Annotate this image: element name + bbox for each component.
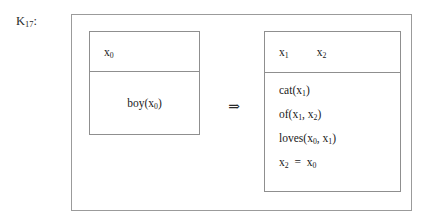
drs-label-base: K <box>16 14 25 28</box>
consequent-universe: x1x2 <box>265 32 400 73</box>
predicate-name: loves <box>279 132 303 144</box>
variable-base: x <box>279 46 285 58</box>
condition-line: of(x1, x2) <box>279 103 400 126</box>
universe-variable: x2 <box>317 46 327 58</box>
condition-line: cat(x1) <box>279 79 400 102</box>
close-paren: ) <box>306 84 310 96</box>
antecedent-universe: x0 <box>90 32 199 72</box>
consequent-drs-box: x1x2 cat(x1) of(x1, x2) loves(x0, x1) x2… <box>264 31 401 192</box>
close-paren: ) <box>318 108 322 120</box>
consequent-conditions: cat(x1) of(x1, x2) loves(x0, x1) x2 = x0 <box>265 73 400 191</box>
close-paren: ) <box>332 132 336 144</box>
variable-subscript: 0 <box>154 102 158 111</box>
drs-label-colon: : <box>34 14 37 28</box>
variable-base: x <box>308 108 314 120</box>
predicate-name: cat <box>279 84 292 96</box>
variable-base: x <box>279 156 285 168</box>
variable-subscript: 2 <box>314 113 318 122</box>
equals-operator: = <box>294 156 301 168</box>
predicate-name: of <box>279 108 289 120</box>
variable-subscript: 1 <box>298 113 302 122</box>
variable-subscript: 0 <box>312 161 316 170</box>
variable-base: x <box>104 46 110 58</box>
variable-subscript: 0 <box>110 51 114 60</box>
variable-subscript: 1 <box>285 51 289 60</box>
antecedent-drs-box: x0 boy(x0) <box>89 31 200 135</box>
variable-subscript: 2 <box>322 51 326 60</box>
variable-base: x <box>307 132 313 144</box>
variable-subscript: 0 <box>313 137 317 146</box>
antecedent-conditions: boy(x0) <box>90 72 199 134</box>
predicate-name: boy <box>127 97 144 109</box>
drs-label-subscript: 17 <box>25 19 34 29</box>
close-paren: ) <box>158 97 162 109</box>
condition-line: x2 = x0 <box>279 151 400 174</box>
variable-subscript: 1 <box>302 89 306 98</box>
outer-drs-box: x0 boy(x0) ⇒ x1x2 cat(x1) of(x1, x2) lov… <box>71 14 412 211</box>
implication-arrow-icon: ⇒ <box>209 100 259 114</box>
drs-label: K17: <box>16 15 37 28</box>
universe-variable: x1 <box>279 46 289 58</box>
condition-line: loves(x0, x1) <box>279 127 400 150</box>
variable-subscript: 1 <box>328 137 332 146</box>
universe-variable: x0 <box>104 46 114 58</box>
variable-subscript: 2 <box>285 161 289 170</box>
condition-line: boy(x0) <box>127 97 162 109</box>
